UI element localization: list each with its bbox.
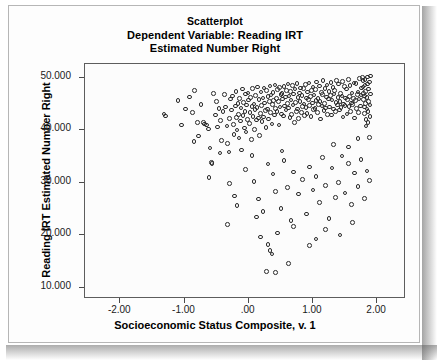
scatter-point	[368, 114, 373, 119]
scatter-point	[214, 99, 219, 104]
y-tick-label: 20.000	[11, 227, 71, 238]
scatter-point	[367, 80, 372, 85]
scatter-point	[307, 243, 312, 248]
scatter-point	[225, 141, 230, 146]
scatter-point	[285, 101, 290, 106]
scatter-point	[368, 92, 373, 97]
y-tick-label: 40.000	[11, 122, 71, 133]
scatter-point	[244, 103, 249, 108]
scatter-point	[238, 119, 243, 124]
scatter-point	[259, 90, 264, 95]
scatter-point	[282, 158, 287, 163]
chart-title-line-1: Scatterplot	[9, 15, 421, 29]
scatter-point	[266, 162, 271, 167]
scatter-point	[271, 172, 276, 177]
scatter-point	[257, 133, 262, 138]
scatter-point	[286, 106, 291, 111]
scatter-point	[350, 91, 355, 96]
scatter-point	[300, 177, 305, 182]
scatter-point	[365, 169, 370, 174]
scatter-point	[311, 188, 316, 193]
scatter-point	[244, 130, 249, 135]
scatter-point	[163, 114, 168, 119]
scatter-point	[211, 91, 216, 96]
scatter-point	[317, 200, 322, 205]
scatter-point	[260, 119, 265, 124]
scatter-point	[192, 139, 197, 144]
x-tick-mark	[248, 298, 249, 303]
scatter-point	[268, 84, 273, 89]
scatter-point	[348, 109, 353, 114]
y-tick-label: 50.000	[11, 70, 71, 81]
scatter-point	[331, 142, 336, 147]
scatter-point	[289, 218, 294, 223]
scatter-point	[346, 145, 351, 150]
scatter-point	[352, 171, 357, 176]
scatter-point	[279, 206, 284, 211]
scatter-point	[239, 148, 244, 153]
scatter-point	[232, 194, 237, 199]
scatter-point	[295, 81, 300, 86]
page-shadow-bottom	[6, 345, 437, 360]
scatter-point	[183, 107, 188, 112]
scatter-point	[264, 88, 269, 93]
scatter-point	[366, 120, 371, 125]
scatter-point	[221, 109, 226, 114]
scatter-point	[273, 270, 278, 275]
x-tick-mark	[376, 298, 377, 303]
scatter-point	[234, 89, 239, 94]
scatter-point	[349, 202, 354, 207]
scatter-point	[317, 84, 322, 89]
scatter-point	[313, 87, 318, 92]
chart-title-block: Scatterplot Dependent Variable: Reading …	[9, 15, 421, 56]
scatter-point	[323, 227, 328, 232]
scatter-point	[354, 81, 359, 86]
scatter-point	[340, 79, 345, 84]
x-tick-label: -1.00	[154, 304, 214, 315]
scatter-point	[291, 170, 296, 175]
scatter-point	[261, 209, 266, 214]
x-tick-label: 2.00	[346, 304, 406, 315]
scatter-point	[258, 235, 263, 240]
scatter-point	[352, 116, 357, 121]
scatter-point	[366, 87, 371, 92]
scatter-point	[333, 195, 338, 200]
scatter-point	[285, 185, 290, 190]
scatter-point	[190, 110, 195, 115]
scatter-point	[273, 189, 278, 194]
scatter-point	[237, 136, 242, 141]
scatter-point	[362, 196, 367, 201]
scatter-point	[195, 120, 200, 125]
plot-area	[84, 63, 405, 298]
scatter-point	[248, 95, 253, 100]
scatter-point	[332, 88, 337, 93]
scatter-point	[255, 85, 260, 90]
scatter-point	[281, 114, 286, 119]
scatter-point	[266, 117, 271, 122]
scatter-point	[346, 77, 351, 82]
scatter-point	[350, 220, 355, 225]
scatter-point	[292, 120, 297, 125]
y-tick-label: 30.000	[11, 175, 71, 186]
scatter-point	[218, 118, 223, 123]
x-tick-mark	[119, 298, 120, 303]
scatter-point	[314, 174, 319, 179]
scatter-point	[210, 161, 215, 166]
scatter-point	[247, 121, 252, 126]
scatter-point	[235, 128, 240, 133]
scatter-point	[227, 181, 232, 186]
scatter-point	[232, 132, 237, 137]
scatter-point	[243, 109, 248, 114]
scatter-point	[223, 105, 228, 110]
scatter-point	[250, 153, 255, 158]
scatter-point	[368, 74, 373, 79]
scatter-point	[322, 101, 327, 106]
scatter-point	[240, 87, 245, 92]
scatter-point	[367, 135, 372, 140]
scatterplot-figure: Scatterplot Dependent Variable: Reading …	[0, 0, 437, 360]
scatter-point	[277, 123, 282, 128]
scatter-point	[343, 191, 348, 196]
scatter-point	[330, 166, 335, 171]
y-tick-label: 10.000	[11, 280, 71, 291]
scatter-point	[356, 184, 361, 189]
